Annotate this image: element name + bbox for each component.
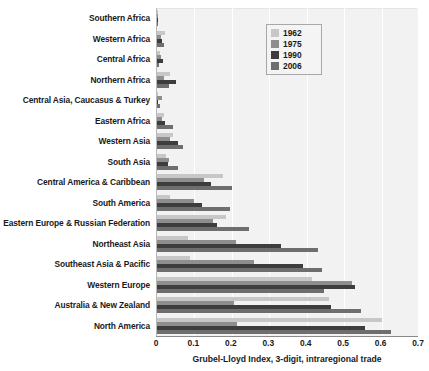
x-axis-tick-labels: 00.10.20.30.40.50.60.7 [0, 338, 429, 352]
bar-2006 [157, 330, 391, 334]
bar-2006 [157, 289, 324, 293]
category-label: Central Asia, Caucasus & Turkey [23, 95, 150, 105]
x-axis-title: Grubel-Lloyd Index, 3-digit, intraregion… [156, 354, 418, 364]
bar-2006 [157, 166, 178, 170]
bar-group [157, 152, 418, 173]
bar-2006 [157, 309, 361, 313]
bar-group [157, 295, 418, 316]
legend-row: 2006 [271, 61, 317, 71]
bar-2006 [157, 145, 183, 149]
legend-row: 1975 [271, 39, 317, 49]
category-label: South America [93, 198, 151, 208]
bar-2006 [157, 125, 173, 129]
legend-row: 1962 [271, 28, 317, 38]
bar-2006 [157, 43, 164, 47]
bar-2006 [157, 227, 249, 231]
x-tick-label: 0 [154, 338, 159, 348]
bar-2006 [157, 84, 169, 88]
bar-2006 [157, 104, 160, 108]
legend-label: 1975 [283, 40, 302, 49]
bar-group [157, 316, 418, 337]
plot-right-edge [417, 8, 418, 336]
bar-group [157, 172, 418, 193]
category-label: Southern Africa [89, 13, 150, 23]
legend-row: 1990 [271, 50, 317, 60]
legend-swatch-1975 [271, 40, 279, 48]
bar-group [157, 213, 418, 234]
x-tick-label: 0.7 [412, 338, 424, 348]
category-label: Northeast Asia [93, 239, 150, 249]
category-label: Australia & New Zealand [55, 300, 150, 310]
bar-group [157, 131, 418, 152]
x-tick-label: 0.1 [188, 338, 200, 348]
grubel-lloyd-bar-chart: Southern AfricaWestern AfricaCentral Afr… [0, 0, 429, 371]
legend-swatch-2006 [271, 62, 279, 70]
x-axis-line [156, 336, 418, 337]
x-tick-label: 0.6 [375, 338, 387, 348]
bar-1975 [157, 96, 162, 100]
category-label: North America [94, 321, 150, 331]
bar-group [157, 111, 418, 132]
legend-swatch-1990 [271, 51, 279, 59]
x-tick-label: 0.2 [225, 338, 237, 348]
bar-2006 [157, 207, 230, 211]
bar-group [157, 254, 418, 275]
bar-2006 [157, 22, 158, 26]
category-label: Western Asia [99, 136, 150, 146]
bar-2006 [157, 63, 159, 67]
chart-legend: 1962197519902006 [266, 24, 322, 75]
category-label: Central Africa [97, 54, 150, 64]
category-label: Western Europe [87, 280, 150, 290]
bar-group [157, 275, 418, 296]
legend-label: 2006 [283, 62, 302, 71]
x-tick-label: 0.3 [262, 338, 274, 348]
bar-group [157, 193, 418, 214]
category-label: Central America & Caribbean [37, 177, 150, 187]
bar-2006 [157, 248, 318, 252]
category-label: Western Africa [93, 34, 150, 44]
gridline [419, 8, 420, 336]
category-label: Eastern Africa [95, 116, 150, 126]
category-label: Northern Africa [90, 75, 150, 85]
category-label: Southeast Asia & Pacific [55, 259, 151, 269]
bar-2006 [157, 186, 232, 190]
x-tick-label: 0.5 [337, 338, 349, 348]
x-tick-label: 0.4 [300, 338, 312, 348]
bar-group [157, 234, 418, 255]
bar-2006 [157, 268, 322, 272]
category-label: Eastern Europe & Russian Federation [3, 218, 150, 228]
category-axis-labels: Southern AfricaWestern AfricaCentral Afr… [0, 8, 154, 336]
bar-group [157, 90, 418, 111]
legend-label: 1962 [283, 29, 302, 38]
legend-swatch-1962 [271, 29, 279, 37]
category-label: South Asia [108, 157, 150, 167]
legend-label: 1990 [283, 51, 302, 60]
